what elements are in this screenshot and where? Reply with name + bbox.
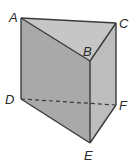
label-f: F: [119, 98, 128, 113]
label-b: B: [83, 44, 92, 59]
label-a: A: [8, 10, 18, 25]
label-e: E: [84, 148, 93, 163]
triangular-prism-diagram: A B C D F E: [0, 0, 135, 168]
label-d: D: [5, 92, 14, 107]
label-c: C: [119, 16, 129, 31]
